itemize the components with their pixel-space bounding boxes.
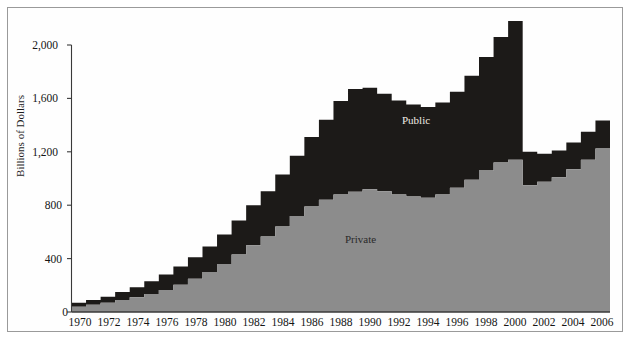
series-label-public: Public xyxy=(402,114,430,126)
chart-figure: Billions of Dollars 0 400 800 1,200 1,60… xyxy=(0,0,633,347)
chart-plot-area xyxy=(0,0,633,347)
stacked-areas xyxy=(72,21,611,312)
y-axis-ticks xyxy=(67,45,72,312)
series-label-private: Private xyxy=(345,233,376,245)
